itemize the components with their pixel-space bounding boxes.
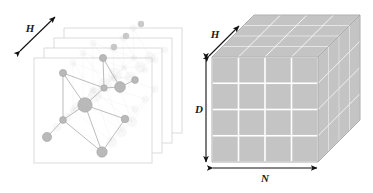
graph-node: [78, 98, 92, 112]
ghost-node: [142, 67, 149, 74]
graph-node: [59, 69, 66, 76]
cube-cell-front: [292, 137, 317, 162]
cube-front-face: [213, 58, 317, 161]
graph-node: [42, 132, 51, 141]
cube-cell-front: [213, 58, 238, 83]
cube-cell-front: [213, 84, 238, 109]
ghost-node: [89, 39, 96, 46]
ghost-node: [131, 105, 139, 113]
graph-node: [121, 115, 129, 123]
cube-cell-front: [266, 110, 291, 135]
cube-n-label: N: [260, 172, 270, 184]
cube-d-label: D: [194, 103, 203, 115]
ghost-node: [151, 85, 159, 93]
ghost-node: [141, 95, 149, 103]
back-layer-node: [138, 21, 144, 27]
cube-cell-front: [213, 137, 238, 162]
ghost-node: [109, 44, 116, 51]
cube-cell-front: [292, 58, 317, 83]
cube-cell-front: [292, 84, 317, 109]
graph-node: [132, 77, 139, 84]
ghost-node: [152, 57, 159, 64]
cube-cell-front: [266, 137, 291, 162]
ghost-node: [69, 59, 76, 66]
cube-cell-front: [213, 110, 238, 135]
ghost-node: [70, 107, 77, 114]
cube-cell-front: [266, 58, 291, 83]
graph-node: [115, 82, 126, 93]
graph-node: [60, 117, 67, 124]
graph-node: [97, 147, 107, 157]
graph-node: [101, 85, 107, 91]
cube-cell-front: [292, 110, 317, 135]
cube-cell-front: [239, 58, 264, 83]
ghost-node: [129, 24, 136, 31]
graph-node: [99, 54, 106, 61]
cube-h-label: H: [210, 28, 220, 40]
ghost-node: [162, 47, 169, 54]
ghost-node: [119, 34, 126, 41]
cube-cell-front: [266, 84, 291, 109]
panels-h-label: H: [25, 22, 35, 34]
cube-cell-front: [239, 137, 264, 162]
cube-cell-front: [239, 84, 264, 109]
figure-canvas: H H D N: [0, 0, 373, 193]
cube-cell-front: [239, 110, 264, 135]
figure-svg: H H D N: [0, 0, 373, 193]
ghost-node: [79, 49, 86, 56]
